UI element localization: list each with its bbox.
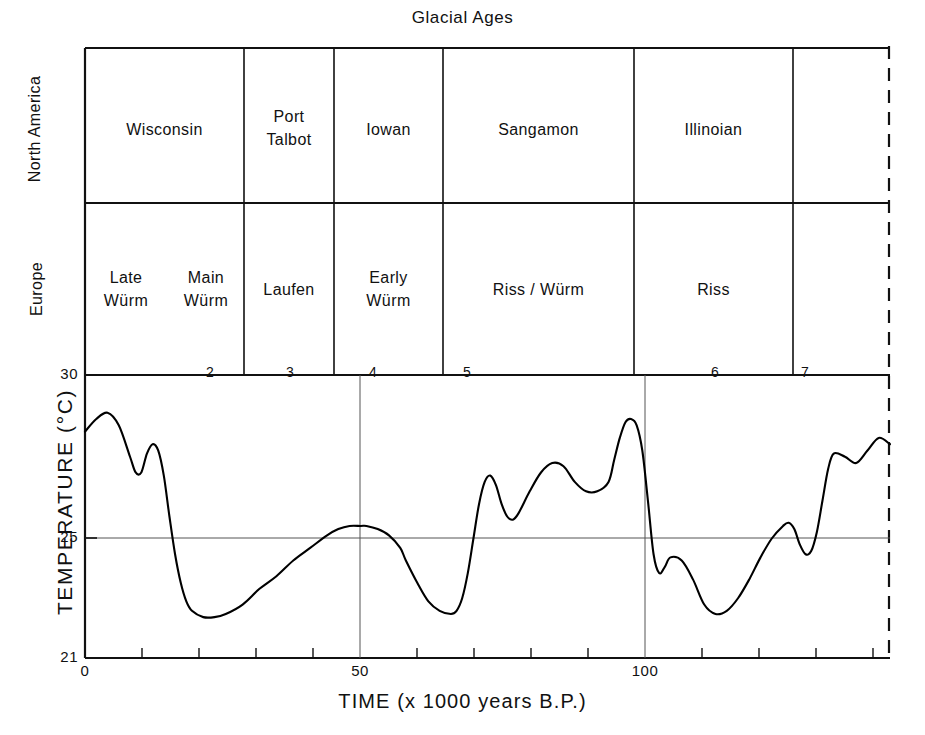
na-cell-label: Wisconsin	[126, 121, 203, 138]
eu-cell-riss-wurm: Riss / Würm	[443, 278, 634, 301]
eu-cell-label: Laufen	[263, 281, 314, 298]
na-cell-wisconsin: Wisconsin	[85, 118, 244, 141]
eu-cell-label: EarlyWürm	[366, 269, 410, 309]
na-cell-label: Sangamon	[498, 121, 579, 138]
temperature-curve-line	[85, 413, 890, 618]
eu-cell-riss: Riss	[634, 278, 793, 301]
eu-cell-label: Riss	[697, 281, 730, 298]
glacial-ages-figure: Glacial Ages North America Europe TEMPER…	[0, 0, 925, 735]
segment-number-2: 2	[195, 364, 225, 380]
na-cell-label: Illinoian	[685, 121, 743, 138]
x-tick-label-100: 100	[627, 662, 663, 679]
eu-cell-label: LateWürm	[104, 269, 148, 309]
segment-number-4: 4	[358, 364, 388, 380]
x-minor-ticks	[142, 648, 873, 658]
x-tick-label-50: 50	[345, 662, 375, 679]
x-axis-title: TIME (x 1000 years B.P.)	[0, 690, 925, 713]
x-tick-label-0: 0	[70, 662, 100, 679]
na-cell-sangamon: Sangamon	[443, 118, 634, 141]
na-cell-label: Iowan	[366, 121, 411, 138]
na-cell-port-talbot: PortTalbot	[244, 105, 334, 151]
eu-cell-main-wurm: MainWürm	[165, 266, 247, 312]
na-cell-iowan: Iowan	[334, 118, 443, 141]
y-tick-label-30: 30	[20, 365, 78, 382]
eu-cell-laufen: Laufen	[244, 278, 334, 301]
na-cell-label: PortTalbot	[266, 108, 311, 148]
plot-frame	[85, 375, 890, 658]
segment-number-6: 6	[700, 364, 730, 380]
segment-number-3: 3	[275, 364, 305, 380]
eu-cell-late-wurm: LateWürm	[85, 266, 167, 312]
segment-number-5: 5	[452, 364, 482, 380]
segment-number-7: 7	[790, 364, 820, 380]
eu-cell-label: Riss / Würm	[493, 281, 585, 298]
eu-cell-label: MainWürm	[184, 269, 228, 309]
y-tick-label-25: 25	[20, 528, 78, 545]
na-cell-illinoian: Illinoian	[634, 118, 793, 141]
eu-cell-early-wurm: EarlyWürm	[334, 266, 443, 312]
